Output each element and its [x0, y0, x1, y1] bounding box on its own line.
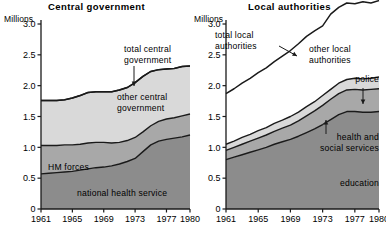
- x-tick-label: 1977: [156, 214, 176, 224]
- y-tick-label: 1.0: [23, 143, 36, 153]
- y-tick-label: 2.5: [23, 50, 36, 60]
- y-tick-label: 0.5: [208, 173, 221, 183]
- x-tick-label: 1965: [248, 214, 268, 224]
- x-tick-label: 1973: [125, 214, 145, 224]
- annotation-label: health and: [337, 132, 379, 142]
- annotation-label: total central: [124, 44, 171, 54]
- x-tick-label: 1969: [94, 214, 114, 224]
- y-tick-label: 1.5: [23, 112, 36, 122]
- chart-central-government: 00.51.01.52.02.53.0196119651969197319771…: [0, 0, 193, 245]
- annotation-label: government: [117, 103, 165, 113]
- annotation-label: total local: [215, 30, 254, 40]
- x-tick-label: 1980: [369, 214, 386, 224]
- y-axis-units-left: Millions: [4, 14, 33, 24]
- y-tick-label: 1.5: [208, 112, 221, 122]
- y-tick-label: 0: [30, 204, 35, 214]
- y-tick-label: 2.5: [208, 50, 221, 60]
- annotation-label: HM forces: [48, 162, 89, 172]
- chart-local-authorities: 00.51.01.52.02.53.0196119651969197319771…: [193, 0, 386, 245]
- panel-local-authorities: Local authorities Millions 00.51.01.52.0…: [193, 0, 386, 245]
- y-tick-label: 2.0: [208, 81, 221, 91]
- annotation-label: authorities: [309, 55, 351, 65]
- y-tick-label: 0.5: [23, 173, 36, 183]
- x-tick-label: 1969: [280, 214, 300, 224]
- annotation-label: other central: [117, 92, 167, 102]
- annotation-education: education: [340, 178, 379, 188]
- x-tick-label: 1977: [345, 214, 365, 224]
- annotation-label: social services: [320, 143, 379, 153]
- annotation-label: other local: [309, 44, 351, 54]
- annotation-label: national health service: [77, 188, 167, 198]
- chart-title-local-authorities: Local authorities: [193, 1, 386, 12]
- annotation-label: authorities: [215, 41, 257, 51]
- annotation-hm-forces: HM forces: [48, 162, 89, 172]
- annotation-other-local-authorities: other localauthorities: [309, 44, 351, 65]
- annotation-national-health-service: national health service: [77, 188, 167, 198]
- annotation-other-central-government: other centralgovernment: [117, 92, 167, 113]
- y-tick-label: 0: [215, 204, 220, 214]
- x-tick-label: 1973: [313, 214, 333, 224]
- annotation-total-local-authorities: total localauthorities: [215, 30, 297, 56]
- chart-title-central-government: Central government: [0, 1, 193, 12]
- y-tick-label: 2.0: [23, 81, 36, 91]
- figure-root: Central government Millions 00.51.01.52.…: [0, 0, 386, 245]
- annotation-label: government: [124, 55, 172, 65]
- y-axis-units-right: Millions: [194, 14, 223, 24]
- x-tick-label: 1961: [31, 214, 51, 224]
- x-tick-label: 1961: [216, 214, 236, 224]
- annotation-label: education: [340, 178, 379, 188]
- annotation-label: police: [355, 74, 379, 84]
- y-tick-label: 1.0: [208, 143, 221, 153]
- x-tick-label: 1965: [62, 214, 82, 224]
- panel-central-government: Central government Millions 00.51.01.52.…: [0, 0, 193, 245]
